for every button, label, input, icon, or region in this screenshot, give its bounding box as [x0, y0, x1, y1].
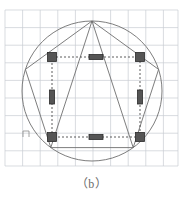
- dashed-rect-outline: [52, 57, 140, 137]
- figure-caption: （b）: [0, 176, 183, 192]
- marker-corner-top-left: [48, 53, 57, 62]
- marker-corner-top-right: [136, 53, 145, 62]
- angle-mark-n: [23, 131, 29, 137]
- marker-set: [48, 53, 145, 142]
- dashed-rectangle: [52, 57, 140, 137]
- marker-corner-bottom-right: [136, 133, 145, 142]
- pentagon-outline: [25, 21, 158, 148]
- pentagon-chord: [92, 21, 133, 148]
- background-grid: [5, 10, 178, 166]
- angle-mark-glyph: [23, 131, 29, 137]
- apex-chords: [51, 21, 133, 148]
- inscribed-pentagon: [25, 21, 158, 148]
- figure-container: （b）: [0, 0, 183, 200]
- marker-edge-bottom-center: [89, 135, 103, 140]
- marker-corner-bottom-left: [48, 133, 57, 142]
- marker-edge-top-center: [89, 55, 103, 60]
- geometry-diagram: [0, 0, 183, 200]
- marker-edge-right-middle: [138, 90, 143, 104]
- pentagon-chord: [51, 21, 92, 148]
- marker-edge-left-middle: [50, 90, 55, 104]
